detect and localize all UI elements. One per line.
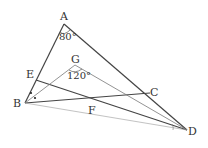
label-D: D bbox=[188, 125, 197, 138]
label-G: G bbox=[71, 53, 80, 66]
label-B: B bbox=[13, 97, 21, 110]
angle-label-A: 80° bbox=[59, 31, 77, 42]
label-C: C bbox=[150, 86, 158, 99]
segment-BD bbox=[25, 103, 187, 130]
angle-mark-dot bbox=[30, 92, 32, 94]
segment-ED bbox=[36, 80, 187, 130]
label-A: A bbox=[59, 10, 69, 23]
label-E: E bbox=[26, 68, 34, 81]
angle-mark-dot bbox=[34, 97, 36, 99]
geometry-diagram: A B C D E F G 80° 120° bbox=[0, 0, 208, 148]
label-F: F bbox=[88, 104, 96, 117]
angle-label-G: 120° bbox=[67, 70, 91, 81]
